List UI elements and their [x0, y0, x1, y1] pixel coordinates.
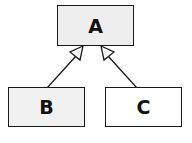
- class-label-c: C: [137, 96, 151, 118]
- class-box-b: B: [8, 87, 85, 127]
- class-label-a: A: [88, 15, 103, 37]
- class-box-c: C: [105, 87, 182, 127]
- hollow-triangle-arrowhead-icon: [101, 46, 114, 60]
- hollow-triangle-arrowhead-icon: [70, 46, 83, 60]
- arrow-c-to-a: [101, 46, 137, 88]
- arrow-b-to-a: [47, 46, 83, 88]
- class-label-b: B: [39, 96, 53, 118]
- class-box-a: A: [57, 5, 134, 46]
